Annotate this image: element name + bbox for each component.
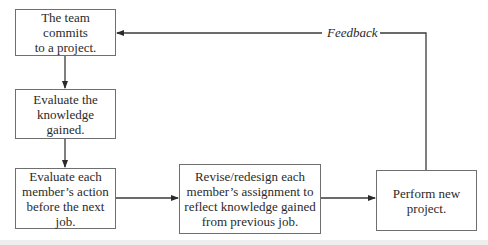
node-team-commits: The team commits to a project. <box>15 9 116 56</box>
node-label: Revise/redesign each member’s assignment… <box>184 169 315 229</box>
node-label: The team commits to a project. <box>20 10 111 55</box>
feedback-label: Feedback <box>327 25 378 40</box>
node-evaluate-knowledge: Evaluate the knowledge gained. <box>15 89 116 139</box>
feedback-line-right <box>380 33 426 170</box>
node-revise-assignment: Revise/redesign each member’s assignment… <box>179 164 321 234</box>
node-label: Evaluate the knowledge gained. <box>20 92 111 137</box>
node-perform-project: Perform new project. <box>376 170 477 231</box>
bottom-band <box>0 240 488 245</box>
node-label: Evaluate each member’s action before the… <box>20 169 111 229</box>
node-evaluate-members: Evaluate each member’s action before the… <box>15 168 116 229</box>
node-label: Perform new project. <box>393 186 461 216</box>
